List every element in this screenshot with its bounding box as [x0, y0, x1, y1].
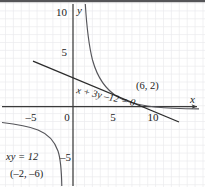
y-axis-label: y — [76, 4, 82, 16]
y-tick-label-10: 10 — [56, 6, 68, 18]
intersection-point-label: (6, 2) — [136, 80, 159, 92]
math-figure-coordinate-plane: 10 5 –5 –5 0 5 10 y x (6, 2) xy = 12 (–2… — [0, 0, 205, 187]
x-tick-label-minus5: –5 — [25, 111, 38, 123]
coordinate-plane-svg: 10 5 –5 –5 0 5 10 y x (6, 2) xy = 12 (–2… — [0, 0, 205, 187]
x-tick-label-0: 0 — [64, 111, 70, 123]
hyperbola-point-label: (–2, –6) — [10, 168, 44, 180]
y-tick-label-5: 5 — [62, 46, 68, 58]
x-tick-label-10: 10 — [148, 111, 160, 123]
hyperbola-equation-label: xy = 12 — [5, 151, 39, 162]
x-tick-label-5: 5 — [110, 111, 116, 123]
page-top-rule — [0, 0, 205, 2]
y-tick-label-minus5: –5 — [59, 151, 72, 163]
x-axis-label: x — [189, 93, 195, 105]
line-equation-label: x + 3y –12 = 0 — [75, 84, 137, 108]
